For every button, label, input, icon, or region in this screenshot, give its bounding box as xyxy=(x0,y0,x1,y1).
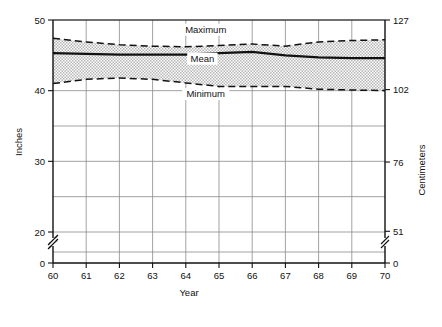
x-tick-label: 65 xyxy=(214,270,225,281)
y-tick-label-right: 102 xyxy=(393,84,409,95)
y-tick-label-right: 127 xyxy=(393,15,409,26)
y-tick-label-left: 40 xyxy=(34,85,45,96)
x-tick-label: 63 xyxy=(147,270,158,281)
x-tick-label: 62 xyxy=(114,270,125,281)
y-tick-label-right: 76 xyxy=(393,157,404,168)
y-tick-label-left: 50 xyxy=(34,15,45,26)
y-tick-label-right: 51 xyxy=(393,226,404,237)
x-tick-label: 70 xyxy=(380,270,391,281)
x-tick-label: 69 xyxy=(347,270,358,281)
x-tick-label: 66 xyxy=(247,270,258,281)
y-axis-title-right: Centimeters xyxy=(416,144,427,195)
y-tick-label-left: 0 xyxy=(40,258,45,269)
x-tick-label: 68 xyxy=(313,270,324,281)
x-tick-label: 60 xyxy=(48,270,59,281)
x-tick-label: 64 xyxy=(181,270,192,281)
statistics-line-chart: 6061626364656667686970 504030200 1271027… xyxy=(0,0,442,327)
annotation-label-mean: Mean xyxy=(191,53,215,64)
y-axis-title-left: Inches xyxy=(13,128,24,156)
annotation-label-minimum: Minimum xyxy=(186,88,225,99)
annotation-label-maximum: Maximum xyxy=(185,24,226,35)
y-tick-label-left: 30 xyxy=(34,156,45,167)
x-tick-label: 61 xyxy=(81,270,92,281)
chart-container: 6061626364656667686970 504030200 1271027… xyxy=(0,0,442,327)
y-tick-label-right: 0 xyxy=(393,258,398,269)
x-tick-label: 67 xyxy=(280,270,291,281)
y-tick-label-left: 20 xyxy=(34,227,45,238)
x-axis-title: Year xyxy=(179,287,198,298)
